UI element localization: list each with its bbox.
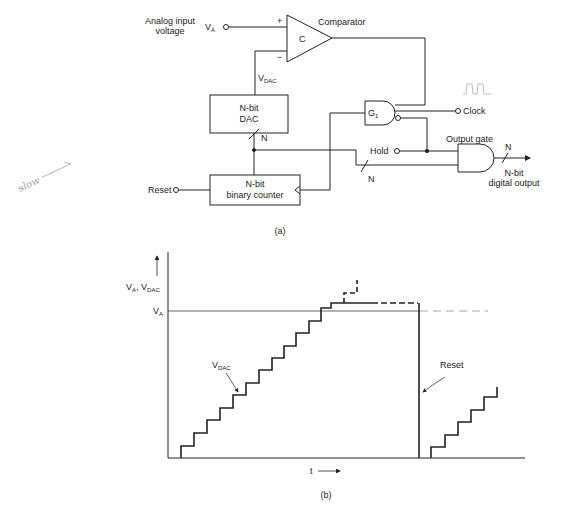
adc-figure: Analog input voltage VA + − C Comparator… [0, 0, 561, 513]
handwritten-note: slow [16, 159, 73, 193]
label-voltage: voltage [155, 26, 184, 36]
label-bus-n2: N [505, 142, 512, 152]
label-output-nbit: N-bit [504, 168, 524, 178]
label-analog-input: Analog input [145, 16, 196, 26]
vdac-staircase [181, 303, 372, 458]
label-counter-nbit: N-bit [245, 179, 265, 189]
label-binary-counter: binary counter [226, 190, 283, 200]
label-minus: − [277, 52, 282, 62]
g1-inverted-input [396, 116, 401, 121]
label-reset-b: Reset [440, 360, 464, 370]
label-vdac: VDAC [258, 73, 277, 84]
label-output-gate: Output gate [446, 134, 493, 144]
label-clock: Clock [463, 106, 486, 116]
label-va: VA [205, 22, 215, 33]
label-comparator-c: C [299, 34, 306, 44]
output-gate [458, 144, 494, 172]
vdac-staircase-2 [431, 387, 497, 458]
hold-terminal [395, 149, 400, 154]
clock-terminal [456, 109, 461, 114]
label-bus-n1: N [261, 133, 268, 143]
label-comparator: Comparator [318, 17, 366, 27]
label-vdac-curve: VDAC [212, 360, 231, 371]
label-digital-output: digital output [488, 178, 540, 188]
label-reset: Reset [148, 185, 172, 195]
timing-graph-labels: VA, VDAC VA VDAC Reset t (b) [126, 282, 464, 500]
label-plus: + [277, 16, 282, 26]
caption-b: (b) [321, 490, 332, 500]
label-dac: DAC [239, 114, 259, 124]
label-hold: Hold [370, 146, 389, 156]
va-terminal [224, 25, 229, 30]
label-x-axis: t [310, 466, 313, 476]
caption-a: (a) [275, 226, 286, 236]
reset-terminal [174, 188, 179, 193]
label-va-level: VA [153, 306, 163, 317]
label-dac-nbit: N-bit [239, 103, 259, 113]
label-y-axis: VA, VDAC [126, 282, 160, 293]
svg-text:slow: slow [16, 174, 42, 194]
label-bus-n3: N [368, 174, 375, 184]
